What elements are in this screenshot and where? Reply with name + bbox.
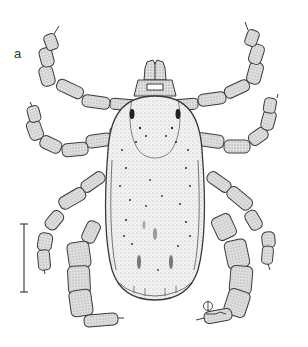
idiosoma <box>105 96 204 300</box>
tick-illustration: a <box>0 0 308 347</box>
leg-1-right <box>172 22 266 111</box>
leg-4-right <box>196 212 253 324</box>
scale-bar <box>20 224 28 292</box>
tick-drawing <box>0 0 308 347</box>
leg-1-left <box>38 26 138 111</box>
capitulum <box>134 60 176 96</box>
